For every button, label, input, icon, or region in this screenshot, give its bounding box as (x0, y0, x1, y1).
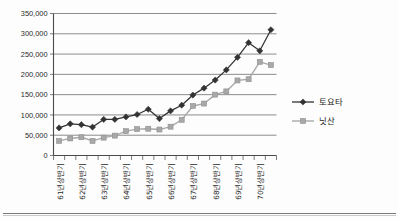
data-point-marker (56, 125, 62, 131)
data-point-marker (268, 27, 274, 33)
y-axis-tick-label: 300,000 (21, 29, 48, 38)
y-axis-tick-label: 0 (43, 151, 47, 160)
data-point-marker (224, 89, 229, 94)
data-point-marker (257, 59, 262, 64)
x-axis-tick-label: 68년상반기 (212, 163, 221, 200)
legend-marker-nissan (301, 119, 306, 124)
data-point-marker (134, 111, 140, 117)
data-point-marker (202, 101, 207, 106)
data-point-marker (78, 122, 84, 128)
x-axis-tick-label: 69년상반기 (234, 163, 243, 200)
page-divider-rule-secondary (3, 215, 396, 216)
y-axis-tick-label: 250,000 (21, 50, 48, 59)
data-point-marker (235, 78, 240, 83)
data-point-marker (112, 116, 118, 122)
data-point-marker (90, 138, 95, 143)
x-axis-tick-label: 65년상반기 (145, 163, 154, 200)
data-point-marker (112, 133, 117, 138)
y-axis-tick-label: 350,000 (21, 9, 48, 18)
legend-label-nissan: 닛산 (319, 116, 335, 126)
legend: 토요타닛산 (292, 97, 343, 126)
x-axis-tick-label: 70년상반기 (256, 163, 265, 200)
y-axis-tick-label: 150,000 (21, 90, 48, 99)
data-point-marker (157, 127, 162, 132)
data-point-marker (68, 136, 73, 141)
gridlines-group: 050,000100,000150,000200,000250,000300,0… (21, 9, 277, 160)
y-axis-tick-label: 100,000 (21, 111, 48, 120)
series-toyota (56, 27, 274, 131)
data-point-marker (79, 135, 84, 140)
x-axis-tick-label: 67년상반기 (189, 163, 198, 200)
page-divider-rule (3, 213, 396, 214)
x-ticks-group (54, 156, 277, 161)
series-line (59, 62, 271, 141)
legend-marker-toyota (300, 99, 306, 105)
y-axis-tick-label: 50,000 (25, 131, 48, 140)
data-point-marker (168, 124, 173, 129)
x-axis-tick-label: 63년상반기 (100, 163, 109, 200)
chart-container: 050,000100,000150,000200,000250,000300,0… (0, 0, 399, 219)
x-axis-tick-label: 64년상반기 (122, 163, 131, 200)
x-axis-tick-label: 66년상반기 (167, 163, 176, 200)
legend-label-toyota: 토요타 (319, 97, 343, 107)
line-chart: 050,000100,000150,000200,000250,000300,0… (0, 0, 399, 219)
data-point-marker (190, 104, 195, 109)
x-axis-tick-label: 62년상반기 (78, 163, 87, 200)
y-axis-tick-label: 200,000 (21, 70, 48, 79)
data-point-marker (213, 92, 218, 97)
data-point-marker (123, 129, 128, 134)
data-point-marker (246, 77, 251, 82)
x-axis-tick-label: 61년상반기 (56, 163, 65, 200)
data-point-marker (67, 121, 73, 127)
data-point-marker (268, 63, 273, 68)
data-point-marker (101, 135, 106, 140)
data-point-marker (146, 126, 151, 131)
data-point-marker (135, 127, 140, 132)
data-point-marker (179, 117, 184, 122)
series-nissan (57, 59, 274, 143)
data-point-marker (57, 138, 62, 143)
